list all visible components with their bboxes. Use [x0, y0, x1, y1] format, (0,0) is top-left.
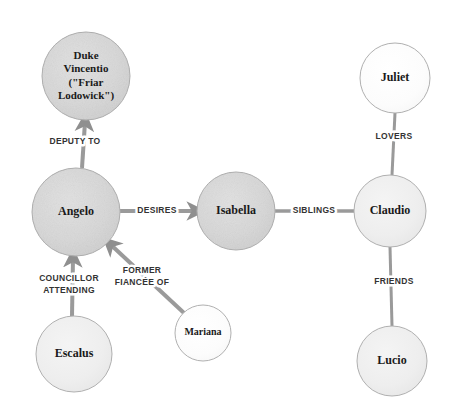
relationship-diagram: DukeVincentio("FriarLodowick")AngeloIsab…: [0, 0, 451, 411]
node-label-claudio: Claudio: [370, 203, 411, 217]
node-angelo[interactable]: Angelo: [32, 168, 120, 256]
node-juliet[interactable]: Juliet: [360, 43, 430, 113]
node-label-escalus: Escalus: [55, 346, 94, 360]
node-label-isabella: Isabella: [216, 203, 256, 217]
node-label-angelo: Angelo: [58, 204, 94, 218]
edge-label-escalus-angelo: COUNCILLORATTENDING: [39, 273, 99, 295]
node-claudio[interactable]: Claudio: [354, 175, 426, 247]
edge-claudio-lucio: [390, 247, 392, 326]
node-mariana[interactable]: Mariana: [175, 305, 231, 361]
graph-canvas: DukeVincentio("FriarLodowick")AngeloIsab…: [0, 0, 451, 411]
edge-label-mariana-angelo: FORMERFIANCÉE OF: [115, 265, 169, 287]
edge-label-angelo-duke: DEPUTY TO: [49, 136, 100, 146]
node-isabella[interactable]: Isabella: [197, 172, 275, 250]
edge-label-isabella-claudio: SIBLINGS: [293, 205, 336, 215]
node-label-mariana: Mariana: [184, 326, 221, 337]
node-escalus[interactable]: Escalus: [36, 316, 112, 392]
node-lucio[interactable]: Lucio: [357, 326, 427, 396]
nodes-layer: DukeVincentio("FriarLodowick")AngeloIsab…: [32, 32, 430, 396]
edge-claudio-juliet: [392, 113, 395, 175]
edge-label-claudio-lucio: FRIENDS: [374, 276, 413, 286]
node-label-juliet: Juliet: [381, 70, 410, 84]
node-label-lucio: Lucio: [377, 353, 406, 367]
node-duke[interactable]: DukeVincentio("FriarLodowick"): [42, 32, 130, 120]
edge-label-claudio-juliet: LOVERS: [376, 131, 413, 141]
edge-label-angelo-isabella: DESIRES: [137, 205, 176, 215]
